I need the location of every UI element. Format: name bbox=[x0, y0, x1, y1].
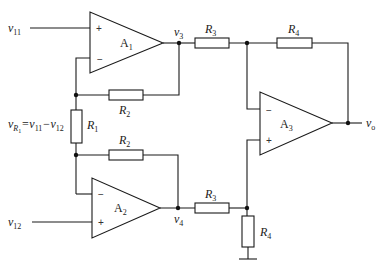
a2-minus-sign: − bbox=[98, 189, 104, 200]
resistor-r1 bbox=[71, 110, 82, 143]
label-v3: v3 bbox=[174, 25, 183, 41]
resistor-r2-bottom bbox=[109, 150, 143, 160]
a2-plus-sign: + bbox=[98, 217, 104, 228]
junction-r1-bottom bbox=[74, 153, 78, 157]
label-r3-bottom: R3 bbox=[204, 187, 216, 203]
resistor-r3-bottom bbox=[195, 203, 229, 213]
junction-v3 bbox=[177, 41, 181, 45]
circuit-diagram: A1 + − A2 − + A3 − + R1 R2 R2 R3 R3 R4 R… bbox=[0, 0, 386, 269]
junction-r3-r4-top bbox=[245, 41, 249, 45]
a1-plus-sign: + bbox=[96, 23, 102, 34]
wire-a3-plus bbox=[247, 140, 260, 216]
wire-a3-minus bbox=[247, 43, 260, 109]
wire-r4-feedback bbox=[312, 43, 348, 123]
a3-minus-sign: − bbox=[266, 105, 272, 116]
junction-r3-r4-bottom bbox=[245, 206, 249, 210]
label-r4-top: R4 bbox=[287, 22, 299, 38]
resistor-r4-bottom bbox=[242, 216, 254, 247]
label-r1: R1 bbox=[86, 118, 98, 134]
label-r2-top: R2 bbox=[118, 103, 130, 119]
wire-v4-feedback bbox=[143, 155, 178, 208]
equation-vr1: vR1=v11−v12 bbox=[8, 117, 64, 134]
junction-r1-top bbox=[74, 93, 78, 97]
label-r2-bottom: R2 bbox=[118, 133, 130, 149]
wire-a1-minus bbox=[76, 58, 90, 110]
label-v12: v12 bbox=[8, 215, 21, 231]
label-v4: v4 bbox=[174, 212, 183, 228]
resistor-r3-top bbox=[195, 38, 229, 48]
junction-vo bbox=[346, 121, 350, 125]
label-r4-bottom: R4 bbox=[259, 225, 271, 241]
junction-v4 bbox=[176, 206, 180, 210]
resistor-r2-top bbox=[109, 90, 143, 100]
label-r3-top: R3 bbox=[204, 22, 216, 38]
a3-plus-sign: + bbox=[266, 135, 272, 146]
label-v11: v11 bbox=[8, 21, 21, 37]
wire-v3-feedback bbox=[143, 43, 179, 95]
resistor-r4-top bbox=[277, 38, 312, 48]
label-vo: vo bbox=[366, 116, 375, 132]
a1-minus-sign: − bbox=[97, 54, 103, 65]
